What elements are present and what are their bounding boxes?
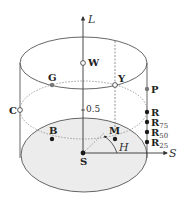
saturation-axis-label: S bbox=[169, 147, 177, 160]
label-p: P bbox=[151, 84, 159, 95]
midlevel-tick-label: 0.5 bbox=[86, 104, 101, 114]
label-y: Y bbox=[117, 73, 126, 84]
label-c: C bbox=[9, 105, 17, 116]
label-g: G bbox=[48, 72, 57, 83]
label-s: S bbox=[80, 156, 87, 167]
point-r75 bbox=[145, 120, 149, 124]
point-p bbox=[145, 87, 149, 91]
cylinder-color-space-diagram: L S H 0.5 W G Y P C R R75 R50 R25 B M S bbox=[0, 0, 183, 202]
point-m bbox=[113, 137, 117, 141]
point-y bbox=[113, 83, 118, 88]
point-g bbox=[50, 83, 54, 87]
point-r25 bbox=[145, 140, 149, 144]
hue-label: H bbox=[118, 141, 129, 154]
label-b: B bbox=[49, 125, 57, 136]
point-b bbox=[50, 137, 54, 141]
lightness-axis-label: L bbox=[87, 13, 95, 26]
label-m: M bbox=[109, 125, 120, 136]
label-w: W bbox=[87, 57, 100, 68]
point-r50 bbox=[145, 130, 149, 134]
point-r bbox=[145, 110, 149, 114]
point-w bbox=[81, 61, 86, 66]
point-c bbox=[18, 108, 23, 113]
point-s bbox=[81, 151, 86, 156]
